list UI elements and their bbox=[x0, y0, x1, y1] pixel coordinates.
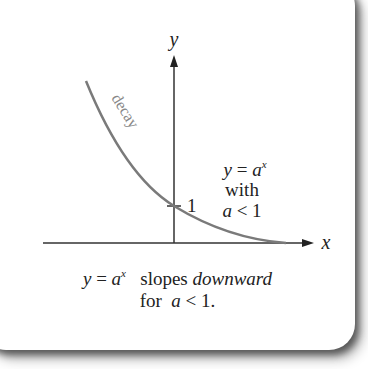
x-axis-label: x bbox=[321, 231, 331, 253]
y-axis-label: y bbox=[168, 28, 179, 51]
caption-line-2: for a < 1. bbox=[0, 290, 355, 312]
annotation-equation: y = ax bbox=[221, 158, 266, 180]
x-axis-arrow-icon bbox=[302, 239, 314, 247]
caption: y = ax slopes downward for a < 1. bbox=[0, 268, 355, 312]
annotation-with: with bbox=[225, 179, 259, 200]
tick-label-one: 1 bbox=[187, 195, 197, 216]
exponential-decay-plot: y x 1 decay y = ax with a < 1 bbox=[0, 0, 368, 369]
curve-label-decay: decay bbox=[108, 91, 143, 132]
annotation-condition: a < 1 bbox=[222, 200, 261, 221]
caption-line-1: y = ax slopes downward bbox=[0, 268, 355, 290]
y-axis-arrow-icon bbox=[170, 55, 178, 67]
